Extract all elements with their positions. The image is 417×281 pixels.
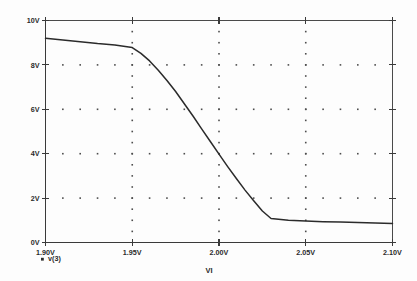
grid-dot [305,131,307,133]
grid-dot [253,153,255,155]
x-axis-title: VI [205,266,212,275]
grid-dot [184,197,186,199]
grid-dot [114,109,116,111]
grid-dot [149,153,151,155]
grid-dot [236,153,238,155]
grid-dots [62,31,376,232]
grid-dot [218,109,220,111]
grid-dot [218,75,220,77]
grid-dot [131,64,133,66]
grid-dot [218,64,220,66]
grid-dot [305,231,307,233]
grid-dot [62,109,64,111]
grid-dot [131,42,133,44]
spice-plot-figure: 0V2V4V6V8V10V1.90V1.95V2.00V2.05V2.10V v… [0,0,417,281]
grid-dot [131,131,133,133]
grid-dot [62,197,64,199]
grid-dot [149,64,151,66]
grid-dot [322,153,324,155]
grid-dot [270,64,272,66]
grid-dot [131,53,133,55]
grid-dot [305,186,307,188]
grid-dot [305,42,307,44]
y-axis-tick-label: 6V [31,105,40,114]
grid-dot [305,164,307,166]
grid-dot [305,208,307,210]
grid-dot [218,53,220,55]
grid-dot [357,153,359,155]
grid-dot [270,109,272,111]
y-axis-tick-label: 2V [31,194,40,203]
grid-dot [149,109,151,111]
grid-dot [131,208,133,210]
grid-dot [79,153,81,155]
grid-dot [357,64,359,66]
grid-dot [97,64,99,66]
legend-entry-label: v(3) [48,254,61,263]
grid-dot [218,86,220,88]
grid-dot [374,197,376,199]
grid-dot [62,64,64,66]
grid-dot [131,175,133,177]
grid-dot [114,64,116,66]
grid-dot [149,197,151,199]
grid-dot [79,197,81,199]
grid-dot [374,153,376,155]
grid-dot [131,164,133,166]
grid-dot [131,220,133,222]
grid-dot [184,109,186,111]
grid-dot [357,109,359,111]
grid-dot [97,153,99,155]
x-axis-tick-label: 1.95V [123,248,142,257]
grid-dot [305,109,307,111]
grid-dot [79,64,81,66]
grid-dot [131,120,133,122]
grid-dot [201,153,203,155]
grid-dot [340,64,342,66]
grid-dot [270,153,272,155]
legend-marker-square [41,258,44,261]
grid-dot [131,153,133,155]
grid-dot [97,197,99,199]
grid-dot [305,175,307,177]
grid-dot [357,197,359,199]
grid-dot [253,109,255,111]
grid-dot [218,131,220,133]
grid-dot [288,197,290,199]
grid-dot [305,75,307,77]
axis-tick-labels: 0V2V4V6V8V10V1.90V1.95V2.00V2.05V2.10V [27,16,402,256]
grid-dot [270,197,272,199]
grid-dot [166,153,168,155]
grid-dot [305,31,307,33]
grid-dot [218,120,220,122]
grid-dot [305,153,307,155]
grid-dot [131,231,133,233]
grid-dot [305,142,307,144]
grid-dot [79,109,81,111]
grid-dot [131,197,133,199]
grid-dot [218,142,220,144]
grid-dot [114,197,116,199]
grid-dot [322,64,324,66]
grid-dot [218,197,220,199]
y-axis-tick-label: 0V [31,238,40,247]
grid-dot [305,97,307,99]
grid-dot [131,86,133,88]
grid-dot [340,197,342,199]
x-axis-tick-label: 2.00V [210,248,229,257]
grid-dot [305,53,307,55]
grid-dot [218,97,220,99]
grid-dot [131,97,133,99]
x-axis-tick-label: 2.10V [383,248,402,257]
grid-dot [201,197,203,199]
grid-dot [288,64,290,66]
grid-dot [305,197,307,199]
grid-dot [218,164,220,166]
grid-dot [97,109,99,111]
grid-dot [166,64,168,66]
grid-dot [288,109,290,111]
grid-dot [131,186,133,188]
grid-dot [253,197,255,199]
grid-dot [305,120,307,122]
grid-dot [340,109,342,111]
